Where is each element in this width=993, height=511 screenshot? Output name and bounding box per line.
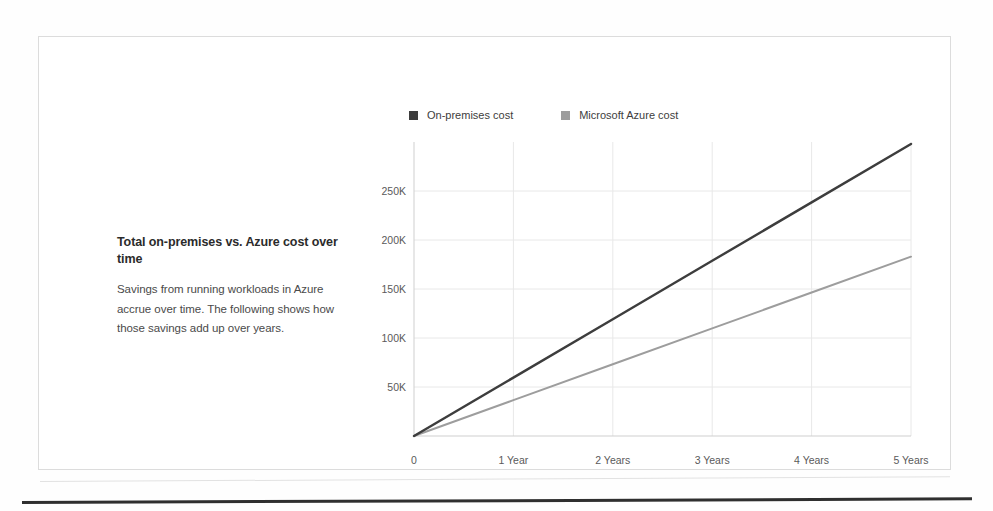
plot-svg xyxy=(364,97,964,487)
plot-area: 50K100K150K200K250K 01 Year2 Years3 Year… xyxy=(364,97,964,487)
cost-comparison-chart: On-premises cost Microsoft Azure cost 50… xyxy=(364,97,964,487)
slide-content-frame: Total on-premises vs. Azure cost over ti… xyxy=(38,36,951,470)
x-tick-label: 5 Years xyxy=(893,454,928,466)
x-tick-label: 1 Year xyxy=(498,454,528,466)
x-tick-label: 3 Years xyxy=(695,454,730,466)
y-tick-label: 150K xyxy=(362,283,406,295)
description-paragraph: Savings from running workloads in Azure … xyxy=(117,280,341,339)
y-tick-label: 50K xyxy=(362,381,406,393)
x-tick-label: 2 Years xyxy=(595,454,630,466)
page-title: Total on-premises vs. Azure cost over ti… xyxy=(117,234,341,268)
y-tick-label: 100K xyxy=(362,332,406,344)
y-tick-label: 250K xyxy=(362,185,406,197)
x-tick-label: 0 xyxy=(411,454,417,466)
description-block: Total on-premises vs. Azure cost over ti… xyxy=(117,234,341,339)
x-tick-label: 4 Years xyxy=(794,454,829,466)
y-tick-label: 200K xyxy=(362,234,406,246)
